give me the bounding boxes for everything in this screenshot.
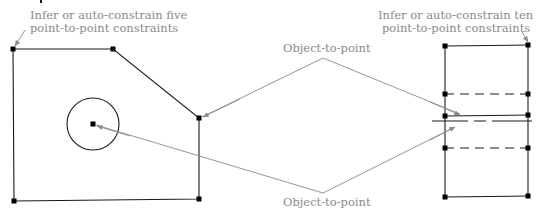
annotation-leaders <box>15 30 528 193</box>
cutoff-text-fragment <box>40 0 42 3</box>
point-marker <box>11 47 16 52</box>
left-note-line2: point-to-point constraints <box>30 22 178 35</box>
left-profile <box>13 49 199 201</box>
point-marker <box>111 47 116 52</box>
circle-center-point <box>91 122 96 127</box>
lower-callout-leader <box>96 125 455 193</box>
lower-callout-label: Object-to-point <box>283 196 371 209</box>
left-points <box>11 47 202 204</box>
constraint-diagram: Infer or auto-constrain five point-to-po… <box>0 0 546 214</box>
point-marker <box>12 199 17 204</box>
right-note-line2: point-to-point constraints <box>382 22 530 35</box>
upper-callout-leader <box>202 58 460 117</box>
upper-callout-label: Object-to-point <box>283 42 371 55</box>
point-marker <box>197 116 202 121</box>
left-profile-outline <box>13 49 199 201</box>
left-note-arrow <box>15 30 25 46</box>
point-marker <box>197 197 202 202</box>
right-profile <box>432 45 541 197</box>
